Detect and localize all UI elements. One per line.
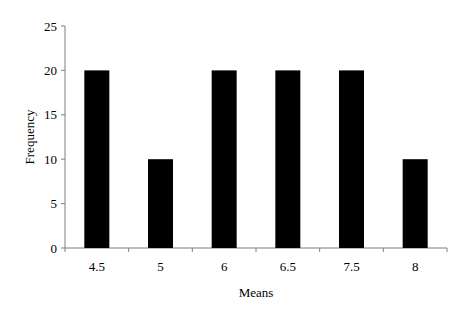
y-tick-label: 20 xyxy=(44,63,57,78)
y-tick-label: 10 xyxy=(44,152,57,167)
x-tick-label: 4.5 xyxy=(89,259,105,274)
x-tick-label: 5 xyxy=(157,259,164,274)
bar-5 xyxy=(148,159,173,248)
y-tick-label: 15 xyxy=(44,107,57,122)
bar-6 xyxy=(212,70,237,248)
bar-7.5 xyxy=(339,70,364,248)
bars xyxy=(84,70,427,248)
bar-6.5 xyxy=(275,70,300,248)
x-tick-label: 8 xyxy=(412,259,419,274)
x-tick-label: 6.5 xyxy=(280,259,296,274)
x-axis: 4.5566.57.58 xyxy=(65,248,447,274)
y-tick-label: 0 xyxy=(51,241,58,256)
bar-4.5 xyxy=(84,70,109,248)
bar-chart: 0510152025 4.5566.57.58 Means Frequency xyxy=(0,0,465,314)
y-axis: 0510152025 xyxy=(44,19,65,256)
y-tick-label: 5 xyxy=(51,196,58,211)
y-axis-title: Frequency xyxy=(22,109,37,164)
x-axis-title: Means xyxy=(239,285,274,300)
bar-8 xyxy=(403,159,428,248)
y-tick-label: 25 xyxy=(44,19,57,34)
x-tick-label: 7.5 xyxy=(343,259,359,274)
x-tick-label: 6 xyxy=(221,259,228,274)
